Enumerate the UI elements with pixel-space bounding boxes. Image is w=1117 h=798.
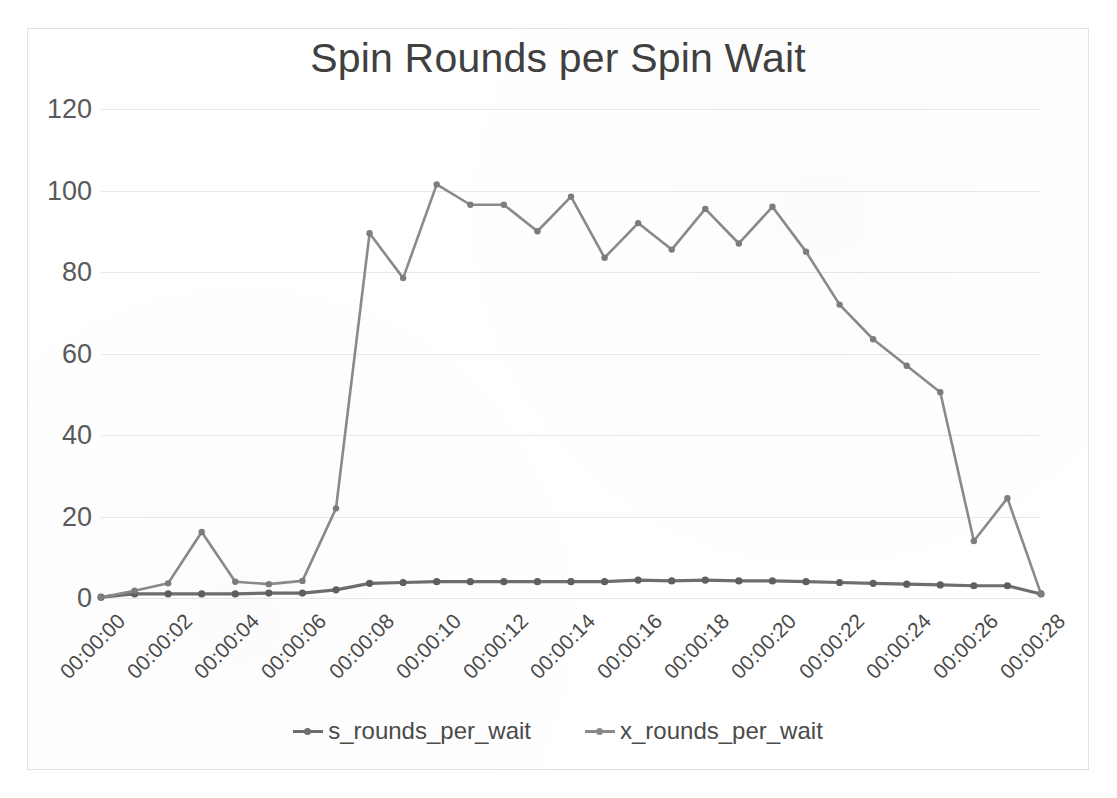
legend-marker-icon (585, 725, 615, 737)
data-point (265, 590, 272, 597)
y-axis-tick-label: 80 (62, 257, 92, 288)
data-point (199, 529, 205, 535)
y-axis-tick-label: 20 (62, 501, 92, 532)
data-point (232, 590, 239, 597)
data-point (836, 579, 843, 586)
legend-entry[interactable]: x_rounds_per_wait (585, 717, 823, 745)
series-layer (101, 109, 1041, 598)
data-point (601, 578, 608, 585)
data-point (266, 581, 272, 587)
data-point (332, 586, 339, 593)
data-point (400, 579, 407, 586)
data-point (467, 578, 474, 585)
data-point (299, 578, 305, 584)
data-point (131, 587, 137, 593)
data-point (601, 255, 607, 261)
series-line (101, 184, 1041, 597)
data-point (937, 581, 944, 588)
chart-legend: s_rounds_per_waitx_rounds_per_wait (28, 717, 1088, 745)
x-axis-labels: 00:00:0000:00:0200:00:0400:00:0600:00:08… (101, 609, 1041, 729)
data-point (366, 230, 372, 236)
data-point (836, 301, 842, 307)
data-point (702, 576, 709, 583)
data-point (567, 578, 574, 585)
data-point (903, 581, 910, 588)
data-point (434, 181, 440, 187)
data-point (1004, 495, 1010, 501)
legend-label: s_rounds_per_wait (328, 717, 531, 745)
series-s_rounds_per_wait (97, 576, 1044, 600)
data-point (702, 206, 708, 212)
data-point (870, 336, 876, 342)
y-axis-tick-label: 0 (77, 583, 92, 614)
legend-entry[interactable]: s_rounds_per_wait (293, 717, 531, 745)
series-x_rounds_per_wait (98, 181, 1044, 600)
data-point (870, 580, 877, 587)
data-point (669, 246, 675, 252)
data-point (232, 579, 238, 585)
data-point (904, 363, 910, 369)
data-point (98, 594, 104, 600)
y-axis-tick-label: 40 (62, 420, 92, 451)
data-point (735, 577, 742, 584)
data-point (501, 202, 507, 208)
data-point (433, 578, 440, 585)
data-point (400, 275, 406, 281)
data-point (198, 590, 205, 597)
data-point (971, 538, 977, 544)
data-point (568, 193, 574, 199)
data-point (668, 577, 675, 584)
data-point (769, 204, 775, 210)
data-point (333, 505, 339, 511)
legend-marker-icon (293, 725, 323, 737)
data-point (366, 580, 373, 587)
data-point (970, 582, 977, 589)
y-axis-tick-label: 60 (62, 338, 92, 369)
data-point (635, 576, 642, 583)
gridline (101, 598, 1041, 599)
data-point (1038, 591, 1044, 597)
y-axis-tick-label: 120 (47, 94, 92, 125)
data-point (165, 590, 172, 597)
data-point (802, 578, 809, 585)
data-point (937, 389, 943, 395)
data-point (534, 228, 540, 234)
data-point (1004, 582, 1011, 589)
data-point (534, 578, 541, 585)
y-axis-tick-label: 100 (47, 175, 92, 206)
data-point (165, 580, 171, 586)
data-point (635, 220, 641, 226)
chart-title: Spin Rounds per Spin Wait (28, 35, 1088, 82)
data-point (299, 590, 306, 597)
data-point (736, 240, 742, 246)
data-point (467, 202, 473, 208)
chart-container: Spin Rounds per Spin Wait 02040608010012… (27, 28, 1089, 770)
legend-label: x_rounds_per_wait (620, 717, 823, 745)
data-point (500, 578, 507, 585)
plot-area: 020406080100120 (101, 109, 1041, 598)
data-point (769, 577, 776, 584)
data-point (803, 248, 809, 254)
